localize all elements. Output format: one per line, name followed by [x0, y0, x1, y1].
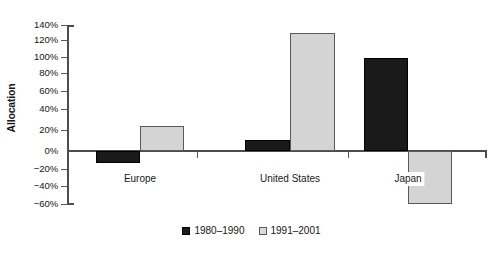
bar-chart-figure: Allocation 140% 120% 100% 80% 60%	[0, 0, 503, 254]
group-separator-tick-2	[348, 152, 349, 158]
y-tick-20	[61, 130, 67, 131]
y-tick-label-wrap-40: 40%	[14, 104, 58, 114]
y-tick-80	[61, 73, 67, 74]
y-tick-label-wrap-0: 0%	[14, 146, 58, 156]
y-tick-label-wrap-80: 80%	[14, 68, 58, 78]
category-label-united-states: United States	[260, 174, 320, 184]
y-tick-label-60: 60%	[16, 86, 58, 96]
y-tick-label-wrap-100: 100%	[14, 52, 58, 62]
legend-entry-1980-1990: 1980–1990	[182, 226, 244, 236]
y-tick-label-140: 140%	[16, 20, 58, 30]
y-tick-neg40	[61, 186, 67, 187]
dark-square-icon	[182, 227, 190, 235]
y-tick-label-wrap-neg60: −60%	[14, 199, 58, 209]
legend-entry-1991-2001: 1991–2001	[259, 226, 321, 236]
y-axis-bottom-cap	[67, 203, 74, 205]
y-tick-label-wrap-60: 60%	[14, 86, 58, 96]
y-tick-100	[61, 57, 67, 58]
y-tick-label-neg40: −40%	[16, 181, 58, 191]
y-tick-label-80: 80%	[16, 68, 58, 78]
bar-japan-1980-1990	[364, 58, 408, 151]
y-tick-label-20: 20%	[16, 125, 58, 135]
y-tick-140	[61, 25, 67, 26]
y-tick-label-wrap-neg40: −40%	[14, 181, 58, 191]
category-label-europe: Europe	[124, 174, 156, 184]
light-square-icon	[259, 227, 267, 235]
y-tick-label-neg60: −60%	[16, 199, 58, 209]
y-tick-neg60	[61, 204, 67, 205]
legend-label-1991-2001: 1991–2001	[271, 226, 321, 236]
y-tick-label-wrap-20: 20%	[14, 125, 58, 135]
bar-europe-1980-1990	[96, 151, 140, 163]
category-label-japan: Japan	[391, 172, 424, 186]
group-separator-tick-1	[197, 152, 198, 158]
y-axis-top-cap	[67, 25, 74, 27]
bar-europe-1991-2001	[140, 126, 184, 151]
y-tick-label-40: 40%	[16, 104, 58, 114]
y-tick-label-neg20: −20%	[16, 164, 58, 174]
legend: 1980–1990 1991–2001	[0, 226, 503, 236]
legend-label-1980-1990: 1980–1990	[194, 226, 244, 236]
y-tick-label-120: 120%	[16, 35, 58, 45]
y-tick-label-0: 0%	[16, 146, 58, 156]
y-tick-label-wrap-120: 120%	[14, 35, 58, 45]
y-tick-neg20	[61, 169, 67, 170]
y-tick-label-wrap-neg20: −20%	[14, 164, 58, 174]
bar-united-states-1980-1990	[245, 140, 290, 151]
y-axis-line	[67, 25, 69, 205]
y-tick-40	[61, 109, 67, 110]
y-tick-60	[61, 91, 67, 92]
y-tick-label-100: 100%	[16, 52, 58, 62]
bar-united-states-1991-2001	[290, 33, 335, 151]
plot-area: 140% 120% 100% 80% 60% 40% 20% 0% −20% −…	[0, 0, 503, 215]
y-tick-120	[61, 40, 67, 41]
x-axis-end-cap	[485, 151, 487, 158]
y-tick-label-wrap-140: 140%	[14, 20, 58, 30]
